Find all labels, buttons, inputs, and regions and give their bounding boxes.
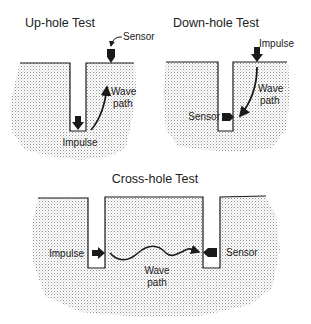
cross-hole-impulse-label: Impulse (49, 248, 84, 259)
down-hole-wave-label-line1: Wave (258, 83, 284, 94)
up-hole-wave-label-line1: Wave (111, 86, 137, 97)
down-hole-impulse-arrow-icon (251, 47, 263, 62)
seismic-test-diagrams: Up-hole Test Sensor Impulse Wave path Do… (0, 0, 311, 324)
down-hole-sensor-label: Sensor (188, 111, 220, 122)
cross-hole-test-panel: Cross-hole Test Impulse Wave path Sensor (32, 172, 280, 317)
down-hole-impulse-label: Impulse (259, 38, 294, 49)
up-hole-sensor-pointer (111, 37, 122, 46)
down-hole-title: Down-hole Test (173, 16, 259, 30)
cross-hole-sensor-label: Sensor (226, 247, 258, 258)
up-hole-wave-label-line2: path (113, 98, 132, 109)
up-hole-sensor-label: Sensor (123, 31, 155, 42)
down-hole-test-panel: Down-hole Test Impulse Wave path Sensor (163, 16, 294, 152)
cross-hole-title: Cross-hole Test (112, 172, 199, 186)
down-hole-wave-label-line2: path (260, 95, 279, 106)
up-hole-impulse-label: Impulse (62, 137, 97, 148)
up-hole-title: Up-hole Test (25, 16, 95, 30)
cross-hole-borehole-left (88, 198, 105, 268)
cross-hole-borehole-right (203, 197, 220, 268)
cross-hole-wave-label-line2: path (147, 277, 166, 288)
up-hole-sensor-icon (107, 49, 115, 63)
up-hole-test-panel: Up-hole Test Sensor Impulse Wave path (10, 16, 155, 160)
cross-hole-wave-label-line1: Wave (144, 265, 170, 276)
